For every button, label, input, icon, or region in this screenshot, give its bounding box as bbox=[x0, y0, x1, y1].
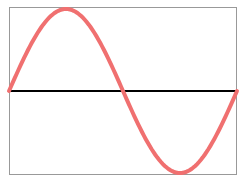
sine-wave-chart bbox=[0, 0, 243, 185]
